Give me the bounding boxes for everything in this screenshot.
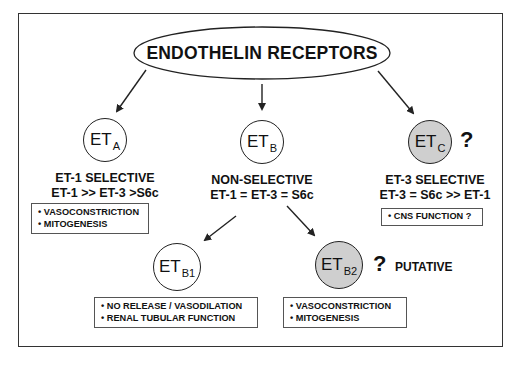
- etb-rank-order: ET-1 = ET-3 = S6c: [192, 188, 332, 202]
- etc-selectivity: ET-3 SELECTIVE: [365, 173, 505, 187]
- figure-caption-clipped: [10, 362, 310, 371]
- function-item: • MITOGENESIS: [290, 313, 400, 325]
- etc-question-mark: ?: [460, 127, 473, 153]
- node-subscript: B2: [344, 265, 357, 277]
- receptor-node-etb1: ETB1: [153, 243, 201, 291]
- receptor-node-etb: ETB: [240, 120, 284, 164]
- etb2-putative-label: PUTATIVE: [395, 260, 453, 274]
- receptor-node-etc: ETC: [408, 120, 452, 164]
- function-item: • CNS FUNCTION ?: [388, 211, 476, 223]
- node-subscript: B: [270, 142, 277, 154]
- etb2-question-mark: ?: [373, 251, 386, 277]
- diagram-title: ENDOTHELIN RECEPTORS: [134, 27, 390, 79]
- function-item: • NO RELEASE / VASODILATION: [101, 301, 251, 313]
- node-main-label: ET: [159, 257, 181, 277]
- eta-function-box: • VASOCONSTRICTION • MITOGENESIS: [31, 203, 149, 234]
- receptor-node-eta: ETA: [83, 118, 127, 162]
- eta-selectivity: ET-1 SELECTIVE: [35, 171, 175, 185]
- etc-function-box: • CNS FUNCTION ?: [381, 208, 483, 226]
- function-item: • RENAL TUBULAR FUNCTION: [101, 313, 251, 325]
- function-item: • MITOGENESIS: [38, 219, 142, 231]
- etb-selectivity: NON-SELECTIVE: [192, 173, 332, 187]
- function-item: • VASOCONSTRICTION: [38, 207, 142, 219]
- node-subscript: A: [113, 140, 120, 152]
- node-main-label: ET: [415, 132, 437, 152]
- etc-rank-order: ET-3 = S6c >> ET-1: [365, 188, 505, 202]
- node-main-label: ET: [321, 255, 343, 275]
- etb2-function-box: • VASOCONSTRICTION • MITOGENESIS: [283, 297, 407, 328]
- node-main-label: ET: [90, 130, 112, 150]
- node-main-label: ET: [247, 132, 269, 152]
- etb1-function-box: • NO RELEASE / VASODILATION • RENAL TUBU…: [94, 297, 258, 328]
- node-subscript: B1: [182, 267, 195, 279]
- node-subscript: C: [437, 142, 445, 154]
- eta-rank-order: ET-1 >> ET-3 >S6c: [35, 186, 175, 200]
- arrow-etb-to-etb2: [287, 206, 314, 235]
- function-item: • VASOCONSTRICTION: [290, 301, 400, 313]
- arrow-etb-to-etb1: [205, 216, 236, 240]
- receptor-node-etb2: ETB2: [315, 241, 363, 289]
